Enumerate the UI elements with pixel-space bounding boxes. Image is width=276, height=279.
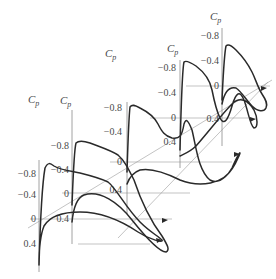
panel-3-tick-m04: −0.4 [104, 126, 122, 137]
panel-5-tick-p04: 0.4 [207, 113, 220, 124]
panel-5-tick-0: 0 [214, 80, 219, 91]
panel-2-tick-0: 0 [64, 188, 69, 199]
station-4-curve [180, 61, 257, 156]
cp-distribution-chart: Cp −0.8 −0.4 0 0.4 Cp −0.8 −0.4 0 0.4 Cp… [0, 0, 276, 279]
panel-1-tick-m04: −0.4 [18, 189, 36, 200]
station-3-curve [127, 105, 240, 184]
panel-5-tick-m04: −0.4 [201, 55, 219, 66]
panel-1-axis: Cp −0.8 −0.4 0 0.4 [18, 93, 39, 272]
panel-3-ylabel: Cp [105, 47, 116, 62]
trailing-edge-markers [156, 86, 267, 243]
panel-4-tick-0: 0 [171, 112, 176, 123]
panel-1-tick-0: 0 [31, 213, 36, 224]
panel-4-ylabel: Cp [167, 42, 178, 57]
panel-4-axis: Cp −0.8 −0.4 0 0.4 [158, 42, 180, 168]
panel-4-tick-m08: −0.8 [158, 62, 176, 73]
panel-1-ylabel: Cp [28, 93, 39, 108]
panel-3-tick-m08: −0.8 [104, 102, 122, 113]
panel-1-tick-m08: −0.8 [18, 168, 36, 179]
panel-3-axis: Cp −0.8 −0.4 0 0.4 [104, 47, 127, 214]
panel-1-tick-p04: 0.4 [24, 238, 37, 249]
panel-5-tick-m08: −0.8 [201, 30, 219, 41]
panel-2-tick-m08: −0.8 [51, 140, 69, 151]
panel-2-ylabel: Cp [60, 94, 71, 109]
panel-5-ylabel: Cp [210, 10, 221, 25]
panel-4-tick-m04: −0.4 [158, 87, 176, 98]
cp-curves [39, 45, 267, 265]
panel-5-axis: Cp −0.8 −0.4 0 0.4 [201, 10, 222, 146]
